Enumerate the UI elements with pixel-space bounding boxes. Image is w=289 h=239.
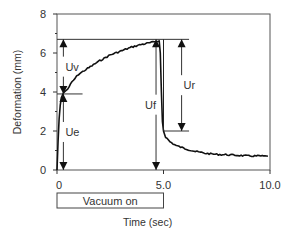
x-tick-label: 10.0 (259, 179, 280, 191)
y-tick-label: 6 (40, 47, 46, 59)
x-tick-label: 5.0 (156, 179, 171, 191)
y-axis-label: Deformation (mm) (11, 50, 23, 135)
arrow-up-icon (59, 39, 67, 47)
arrow-down-icon (59, 162, 67, 170)
annotation-label-uf: Uf (145, 99, 157, 111)
y-tick-label: 8 (40, 8, 46, 20)
vacuum-on-label: Vacuum on (83, 195, 138, 207)
arrow-down-icon (152, 162, 160, 170)
annotation-label-ur: Ur (184, 79, 196, 91)
arrow-up-icon (178, 39, 186, 47)
data-series-deformation (57, 41, 268, 170)
y-tick-label: 4 (40, 86, 46, 98)
deformation-chart: 0246805.010.0Time (sec)Deformation (mm)U… (0, 0, 289, 239)
annotation-label-ue: Ue (65, 126, 79, 138)
y-tick-label: 0 (40, 164, 46, 176)
y-tick-label: 2 (40, 125, 46, 137)
annotation-label-uv: Uv (65, 61, 79, 73)
x-tick-label: 0 (56, 179, 62, 191)
x-axis-label: Time (sec) (123, 216, 172, 228)
arrow-down-icon (178, 123, 186, 131)
